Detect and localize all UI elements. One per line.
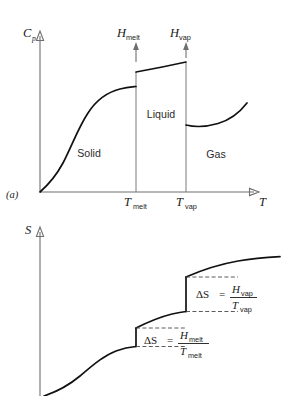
h-vap-label-subscript: vap <box>179 33 191 42</box>
region-label-solid: Solid <box>77 147 101 159</box>
cp-axis-label-base: C <box>23 26 32 40</box>
curve-liquid-cp <box>136 62 186 72</box>
delta-s-vap-numerator-base: H <box>231 283 241 295</box>
panel-heat-capacity: C p T (a) H melt H vap <box>6 26 267 211</box>
tick-t-vap-subscript: vap <box>185 202 197 211</box>
delta-s-melt-equation: ΔS = H melt T melt <box>144 329 209 360</box>
tick-label-t-melt: T melt <box>124 195 147 211</box>
delta-s-vap-equals: = <box>219 288 225 300</box>
panel-label: (a) <box>6 189 19 201</box>
region-label-gas: Gas <box>206 148 225 160</box>
delta-s-melt-numerator-base: H <box>179 329 189 341</box>
s-y-axis <box>36 227 43 396</box>
panel-entropy: S ΔS = H melt T <box>25 223 280 396</box>
delta-s-melt-denominator-subscript: melt <box>188 351 202 360</box>
tick-label-t-vap: T vap <box>176 195 197 211</box>
delta-s-vap-lhs: ΔS <box>196 288 209 300</box>
delta-s-vap-numerator-subscript: vap <box>241 289 253 298</box>
delta-s-melt-equals: = <box>167 334 173 346</box>
curve-gas-entropy <box>186 257 280 277</box>
delta-s-melt-denominator-base: T <box>180 345 187 357</box>
h-vap-annotation: H vap <box>169 26 191 58</box>
s-axis-label: S <box>25 223 32 237</box>
h-melt-label-subscript: melt <box>126 33 140 42</box>
cp-y-axis <box>36 31 43 192</box>
tick-t-melt-base: T <box>124 195 132 209</box>
region-label-liquid: Liquid <box>147 108 175 120</box>
delta-s-melt-numerator-subscript: melt <box>189 335 203 344</box>
delta-s-melt-lhs: ΔS <box>144 334 157 346</box>
tick-t-vap-base: T <box>176 195 184 209</box>
cp-axis-label-subscript: p <box>31 34 36 43</box>
curve-solid-entropy <box>44 347 136 396</box>
h-melt-annotation: H melt <box>116 26 140 62</box>
tick-t-melt-subscript: melt <box>133 202 147 211</box>
curve-solid-cp <box>40 87 136 193</box>
thermodynamics-figure: C p T (a) H melt H vap <box>0 0 284 396</box>
delta-s-vap-denominator-subscript: vap <box>240 305 252 314</box>
h-vap-arrowhead <box>183 42 189 50</box>
delta-s-vap-denominator-base: T <box>232 299 239 311</box>
figure-canvas: C p T (a) H melt H vap <box>0 0 284 396</box>
cp-x-axis <box>40 188 259 195</box>
h-melt-arrowhead <box>133 42 139 50</box>
curve-gas-cp <box>186 103 247 127</box>
cp-axis-label: C p <box>23 26 36 43</box>
cp-x-axis-label: T <box>259 195 267 209</box>
curve-liquid-entropy <box>136 312 186 329</box>
delta-s-vap-equation: ΔS = H vap T vap <box>196 283 257 314</box>
